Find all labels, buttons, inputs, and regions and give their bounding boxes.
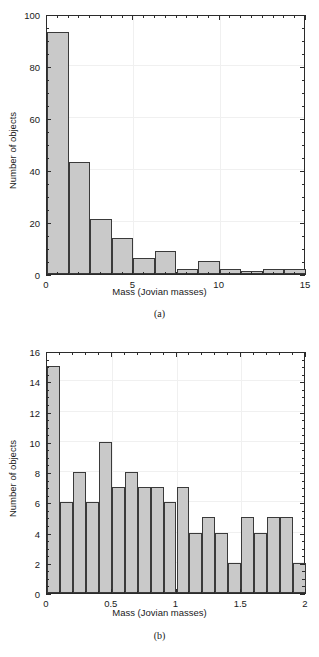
y-tick-minor-right <box>302 80 305 81</box>
y-tick-minor-right <box>302 28 305 29</box>
x-tick-minor-top <box>266 352 267 355</box>
y-tick-major-right <box>300 67 305 68</box>
x-tick-minor-top <box>240 15 241 18</box>
x-tick-major <box>305 589 306 594</box>
x-tick-minor-top <box>85 352 86 355</box>
y-tick-label: 40 <box>29 166 40 177</box>
y-tick-minor <box>46 80 49 81</box>
x-tick-major <box>176 589 177 594</box>
y-tick-minor <box>46 184 49 185</box>
x-tick-minor-top <box>143 15 144 18</box>
y-tick-minor <box>46 106 49 107</box>
x-tick-minor-top <box>283 15 284 18</box>
y-tick-minor <box>46 390 49 391</box>
x-tick-minor <box>294 272 295 275</box>
x-tick-minor-top <box>57 15 58 18</box>
y-tick-label: 16 <box>29 347 40 358</box>
y-tick-major-right <box>300 473 305 474</box>
y-tick-minor <box>46 450 49 451</box>
x-tick-major-top <box>305 15 306 20</box>
y-tick-minor-right <box>302 458 305 459</box>
histogram-bar <box>164 502 177 593</box>
y-tick-minor-right <box>302 41 305 42</box>
x-tick-minor <box>150 591 151 594</box>
x-tick-minor-top <box>98 352 99 355</box>
x-tick-minor-top <box>279 352 280 355</box>
x-tick-minor <box>98 591 99 594</box>
histogram-bar <box>47 366 60 593</box>
histogram-bars-b <box>47 353 304 593</box>
y-tick-minor <box>46 481 49 482</box>
y-tick-major <box>46 352 51 353</box>
figure-two-histograms: 051015020406080100 Mass (Jovian masses) … <box>0 0 319 657</box>
x-tick-minor <box>57 272 58 275</box>
x-tick-minor <box>251 272 252 275</box>
histogram-bar <box>112 487 125 593</box>
y-tick-major-right <box>300 503 305 504</box>
y-tick-minor-right <box>302 450 305 451</box>
y-tick-major <box>46 413 51 414</box>
y-tick-minor-right <box>302 54 305 55</box>
y-tick-minor-right <box>302 556 305 557</box>
histogram-bar <box>47 32 69 274</box>
y-tick-minor-right <box>302 360 305 361</box>
histogram-bar <box>138 487 151 593</box>
y-tick-label: 12 <box>29 407 40 418</box>
x-tick-minor <box>283 272 284 275</box>
y-tick-minor <box>46 549 49 550</box>
y-tick-minor <box>46 158 49 159</box>
y-tick-label: 80 <box>29 62 40 73</box>
x-tick-minor <box>59 591 60 594</box>
x-tick-minor-top <box>188 352 189 355</box>
y-tick-minor-right <box>302 210 305 211</box>
y-tick-minor <box>46 488 49 489</box>
y-tick-minor <box>46 210 49 211</box>
y-tick-major <box>46 119 51 120</box>
x-tick-label: 1.5 <box>234 598 247 609</box>
plot-area-a <box>46 15 305 275</box>
y-tick-minor <box>46 420 49 421</box>
y-tick-label: 20 <box>29 218 40 229</box>
panel-caption-a: (a) <box>154 308 165 319</box>
x-tick-minor-top <box>100 15 101 18</box>
y-tick-minor-right <box>302 481 305 482</box>
x-tick-minor-top <box>176 15 177 18</box>
x-tick-minor <box>100 272 101 275</box>
x-tick-minor-top <box>186 15 187 18</box>
y-tick-minor-right <box>302 526 305 527</box>
y-tick-major <box>46 503 51 504</box>
x-tick-minor <box>78 272 79 275</box>
y-tick-minor <box>46 28 49 29</box>
x-tick-label: 0 <box>43 279 48 290</box>
y-tick-major <box>46 534 51 535</box>
y-tick-major <box>46 171 51 172</box>
y-tick-minor-right <box>302 420 305 421</box>
y-tick-minor <box>46 197 49 198</box>
y-tick-minor-right <box>302 184 305 185</box>
y-tick-label: 8 <box>35 468 40 479</box>
x-tick-minor <box>122 272 123 275</box>
y-tick-major-right <box>300 119 305 120</box>
x-tick-minor-top <box>201 352 202 355</box>
y-tick-minor-right <box>302 405 305 406</box>
x-tick-major <box>305 270 306 275</box>
histogram-bar <box>202 517 215 593</box>
x-tick-minor <box>176 272 177 275</box>
histogram-bar <box>241 517 254 593</box>
histogram-bar <box>215 533 228 594</box>
y-tick-minor <box>46 526 49 527</box>
x-tick-minor-top <box>294 15 295 18</box>
y-tick-major <box>46 473 51 474</box>
x-axis-title-b: Mass (Jovian masses) <box>112 607 207 618</box>
x-tick-minor <box>165 272 166 275</box>
y-tick-major <box>46 382 51 383</box>
x-tick-major <box>240 589 241 594</box>
x-tick-minor-top <box>111 15 112 18</box>
x-tick-minor <box>229 272 230 275</box>
x-tick-minor <box>85 591 86 594</box>
x-tick-major-top <box>219 15 220 20</box>
x-tick-major <box>219 270 220 275</box>
y-tick-minor <box>46 41 49 42</box>
histogram-bars-a <box>47 16 304 274</box>
x-tick-minor-top <box>150 352 151 355</box>
